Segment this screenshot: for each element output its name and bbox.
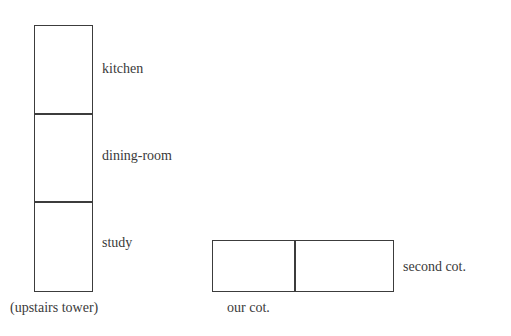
room-study (34, 201, 93, 292)
label-second-cot: second cot. (403, 260, 466, 274)
room-dining-room (34, 113, 93, 203)
room-kitchen (34, 25, 93, 115)
label-dining-room: dining-room (102, 149, 172, 163)
cot-second (294, 240, 394, 292)
cot-ours (212, 240, 296, 292)
label-our-cot: our cot. (227, 301, 270, 315)
label-kitchen: kitchen (102, 62, 143, 76)
label-study: study (102, 236, 132, 250)
tower-caption: (upstairs tower) (10, 301, 98, 315)
